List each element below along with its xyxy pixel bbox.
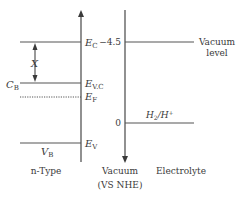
cb-label: CB bbox=[6, 79, 19, 92]
ev-label: EV bbox=[84, 138, 98, 151]
ec-label: EC bbox=[84, 37, 98, 50]
vacuum-level-label-line1: Vacuum bbox=[198, 37, 236, 47]
n-type-axis bbox=[78, 10, 84, 162]
vacuum-axis bbox=[122, 10, 128, 163]
vacuum-level-label-line2: level bbox=[206, 48, 228, 58]
arrow-down-icon bbox=[122, 156, 128, 163]
electrolyte-caption: Electrolyte bbox=[156, 166, 206, 176]
x-label: X bbox=[30, 58, 39, 69]
tick-zero: 0 bbox=[115, 118, 121, 128]
n-type-caption: n-Type bbox=[31, 166, 62, 176]
arrow-up-icon bbox=[78, 10, 84, 17]
vb-label: VB bbox=[41, 146, 53, 159]
vs-nhe-caption: (VS NHE) bbox=[98, 180, 143, 190]
energy-band-diagram: X EC EV.C EF EV CB VB −4.5 0 Vacuum leve… bbox=[0, 0, 239, 200]
evc-label: EV.C bbox=[84, 78, 104, 91]
tick-minus-4-5: −4.5 bbox=[99, 37, 121, 47]
vacuum-caption: Vacuum bbox=[101, 166, 139, 176]
redox-label: H2/H+ bbox=[145, 109, 174, 121]
ef-label: EF bbox=[84, 91, 97, 104]
